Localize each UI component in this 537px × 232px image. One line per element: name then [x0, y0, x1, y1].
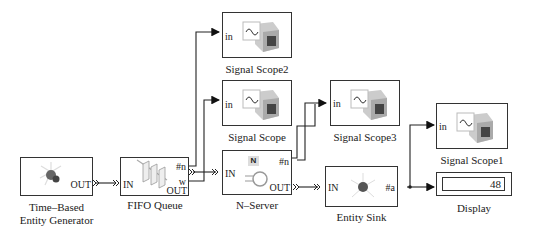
fifo-queue-block[interactable]: IN #n w OUT [120, 157, 189, 196]
sink-label: Entity Sink [315, 211, 408, 224]
signal-scope3-block[interactable]: in [330, 80, 400, 126]
server-label: N–Server [212, 199, 302, 212]
entity-sink-block[interactable]: IN #a [325, 166, 398, 207]
server-n-port: #n [279, 156, 289, 167]
display-block[interactable]: 48 [436, 172, 512, 196]
display-value: 48 [442, 177, 505, 191]
generator-label: Time–Based Entity Generator [10, 201, 103, 227]
scope-label: Signal Scope [212, 131, 302, 144]
sink-icon [348, 172, 378, 202]
generator-out-port: OUT [70, 179, 91, 190]
sink-in-port: IN [328, 182, 339, 193]
signal-scope2-block[interactable]: in [222, 12, 292, 58]
scope2-label: Signal Scope2 [212, 63, 302, 76]
scope1-in-port: in [439, 121, 447, 132]
signal-scope1-block[interactable]: in [436, 103, 508, 149]
fifo-in-port: IN [123, 179, 134, 190]
scope-icon [349, 86, 389, 122]
scope3-label: Signal Scope3 [320, 131, 410, 144]
fifo-n-port: #n [176, 161, 186, 172]
signal-scope-block[interactable]: in [222, 80, 292, 126]
scope1-label: Signal Scope1 [427, 154, 517, 167]
fifo-out-port: OUT [166, 185, 187, 196]
scope-icon [241, 86, 281, 122]
display-label: Display [429, 202, 519, 215]
server-n-icon: N [248, 156, 259, 166]
sink-a-port: #a [386, 182, 395, 193]
scope-icon [455, 109, 495, 145]
server-icon [243, 169, 273, 189]
scope-in-port: in [225, 99, 233, 110]
n-server-block[interactable]: IN #n OUT N [222, 150, 292, 195]
time-based-entity-generator-block[interactable]: OUT [20, 157, 93, 196]
scope2-in-port: in [225, 31, 233, 42]
scope-icon [241, 18, 281, 54]
fifo-label: FIFO Queue [110, 199, 200, 212]
server-in-port: IN [225, 168, 236, 179]
scope3-in-port: in [333, 98, 341, 109]
